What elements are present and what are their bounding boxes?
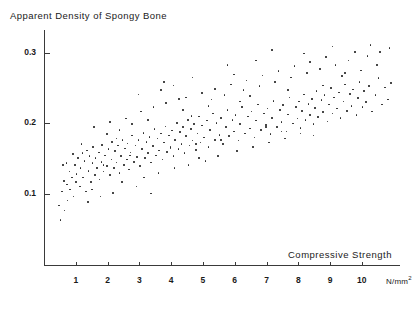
data-point [206, 120, 208, 122]
data-point [203, 137, 205, 139]
data-point [160, 89, 162, 91]
data-point [362, 106, 364, 108]
data-point [300, 133, 302, 135]
data-point [349, 93, 351, 95]
data-point [219, 134, 221, 136]
data-point [198, 116, 200, 118]
data-point [217, 155, 219, 157]
data-point [188, 164, 190, 166]
data-point [131, 135, 133, 137]
data-point [109, 121, 111, 123]
data-point [195, 149, 197, 151]
data-point [214, 139, 216, 141]
data-point [281, 131, 283, 133]
data-point [189, 145, 191, 147]
data-point [200, 142, 202, 144]
data-point [165, 126, 167, 128]
data-point [141, 148, 143, 150]
data-point [346, 110, 348, 112]
data-point [208, 105, 210, 107]
data-point [351, 105, 353, 107]
data-point [259, 85, 261, 87]
data-point [352, 89, 354, 91]
data-point [332, 113, 334, 115]
data-point [222, 143, 224, 145]
data-point [173, 155, 175, 157]
data-point [74, 164, 76, 166]
data-point [255, 120, 257, 122]
data-point [243, 89, 245, 91]
data-point [61, 191, 63, 193]
data-point [95, 157, 97, 159]
data-point [116, 138, 118, 140]
x-axis-unit-exponent: 2 [408, 275, 412, 281]
data-point [322, 85, 324, 87]
data-point [317, 116, 319, 118]
data-point [344, 72, 346, 74]
data-point [322, 111, 324, 113]
data-point [143, 177, 145, 179]
data-point [252, 146, 254, 148]
data-point [281, 121, 283, 123]
data-point [185, 135, 187, 137]
data-point [92, 146, 94, 148]
data-point [119, 129, 121, 131]
data-point [309, 61, 311, 63]
data-point [314, 107, 316, 109]
data-point [158, 172, 160, 174]
data-point [114, 150, 116, 152]
data-point [122, 139, 124, 141]
data-point [332, 46, 334, 48]
x-tick-label: 8 [288, 275, 308, 285]
data-point [174, 167, 176, 169]
data-point [363, 90, 365, 92]
data-point [379, 51, 381, 53]
data-point [298, 101, 300, 103]
data-point [208, 146, 210, 148]
scatter-plot-figure: Apparent Density of Spongy Bone 0.10.20.… [0, 0, 420, 309]
data-point [187, 119, 189, 121]
data-point [319, 68, 321, 70]
data-point [75, 181, 77, 183]
data-point [232, 119, 234, 121]
data-point [136, 186, 138, 188]
data-point [233, 131, 235, 133]
data-point [152, 145, 154, 147]
data-point [335, 64, 337, 66]
data-point [158, 150, 160, 152]
data-point [170, 148, 172, 150]
data-point [182, 109, 184, 111]
data-point [265, 126, 267, 128]
data-point [333, 97, 335, 99]
data-point [321, 99, 323, 101]
data-point [67, 200, 69, 202]
data-point [289, 97, 291, 99]
data-point [100, 196, 102, 198]
data-point [267, 108, 269, 110]
data-point [278, 70, 280, 72]
data-point [274, 81, 276, 83]
data-point [193, 123, 195, 125]
x-axis-unit-label: N/mm2 [386, 275, 412, 286]
data-point [348, 60, 350, 62]
data-point [220, 139, 222, 141]
data-point [235, 114, 237, 116]
data-point [129, 155, 131, 157]
data-point [69, 171, 71, 173]
data-point [327, 121, 329, 123]
data-point [262, 75, 264, 77]
x-tick-label: 9 [320, 275, 340, 285]
data-point [64, 210, 66, 212]
x-tick-label: 1 [66, 275, 86, 285]
data-point [287, 89, 289, 91]
data-point [108, 148, 110, 150]
x-tick-label: 3 [129, 275, 149, 285]
data-point [270, 133, 272, 135]
data-point [111, 141, 113, 143]
data-point [241, 106, 243, 108]
data-point [286, 131, 288, 133]
data-point [284, 138, 286, 140]
data-point [357, 97, 359, 99]
data-point [101, 144, 103, 146]
data-point [140, 111, 142, 113]
